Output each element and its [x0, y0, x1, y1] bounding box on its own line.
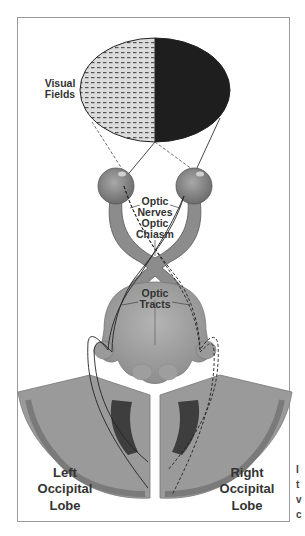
- left-eye: [98, 168, 134, 204]
- visual-field-ellipse: [80, 38, 230, 142]
- label-optic-chiasm: OpticChiasm: [135, 218, 175, 240]
- cutoff-text-4: c: [296, 509, 302, 520]
- label-optic-tracts: OpticTracts: [135, 288, 175, 310]
- label-optic-nerves: OpticNerves: [135, 196, 175, 218]
- label-right-occipital-lobe: RightOccipitalLobe: [212, 465, 282, 514]
- right-eye: [176, 168, 212, 204]
- cutoff-text-2: t: [296, 479, 299, 490]
- label-visual-fields: VisualFields: [40, 78, 80, 100]
- label-left-occipital-lobe: LeftOccipitalLobe: [30, 465, 100, 514]
- cutoff-text-3: v: [296, 494, 302, 505]
- cutoff-text-1: I: [296, 464, 299, 475]
